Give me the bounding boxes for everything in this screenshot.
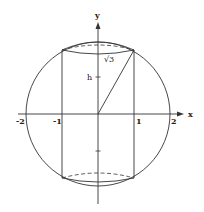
y-axis-label: y <box>94 10 100 20</box>
x-tick-label-neg1: -1 <box>53 116 62 126</box>
cylinder-in-sphere-diagram: y x -2 -1 1 2 h √3 <box>0 0 204 212</box>
x-tick-label-2: 2 <box>171 116 177 126</box>
height-label: h <box>87 73 92 82</box>
y-axis-arrow-icon <box>96 22 101 29</box>
x-axis-label: x <box>188 109 193 119</box>
x-tick-label-neg2: -2 <box>16 116 25 126</box>
x-tick-label-1: 1 <box>136 116 142 126</box>
x-axis-arrow-icon <box>177 112 184 117</box>
sqrt3-label: √3 <box>104 55 114 64</box>
